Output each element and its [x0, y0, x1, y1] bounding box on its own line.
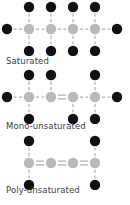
hydrogen-atom-node [2, 92, 12, 102]
molecule-mono-unsaturated [0, 68, 130, 124]
carbon-atom-node [24, 24, 34, 34]
carbon-atom-node [90, 92, 100, 102]
hydrogen-atom-node [112, 24, 122, 34]
label-saturated: Saturated [6, 56, 49, 66]
molecule-svg-saturated [0, 0, 130, 56]
carbon-atom-node [68, 158, 78, 168]
carbon-atom-node [46, 24, 56, 34]
carbon-atom-node [90, 24, 100, 34]
hydrogen-atom-node [112, 92, 122, 102]
carbon-atom-node [46, 92, 56, 102]
carbon-atom-node [68, 24, 78, 34]
hydrogen-atom-node [24, 2, 34, 12]
molecule-svg-mono-unsaturated [0, 68, 130, 124]
fatty-acid-diagram: Saturated Mono-unsaturated Poly-unsatura… [0, 0, 130, 205]
hydrogen-atom-node [46, 2, 56, 12]
carbon-atom-node [24, 158, 34, 168]
hydrogen-atom-node [90, 46, 100, 56]
hydrogen-atom-node [24, 46, 34, 56]
molecule-svg-poly-unsaturated [0, 134, 130, 190]
hydrogen-atom-node [46, 46, 56, 56]
label-mono-unsaturated: Mono-unsaturated [6, 121, 86, 131]
hydrogen-atom-node [90, 2, 100, 12]
hydrogen-atom-node [90, 180, 100, 190]
molecule-saturated [0, 0, 130, 56]
hydrogen-atom-node [2, 24, 12, 34]
hydrogen-atom-node [24, 136, 34, 146]
carbon-atom-node [46, 158, 56, 168]
molecule-poly-unsaturated [0, 134, 130, 190]
carbon-atom-node [90, 158, 100, 168]
hydrogen-atom-node [90, 70, 100, 80]
hydrogen-atom-node [90, 114, 100, 124]
carbon-atom-node [68, 92, 78, 102]
hydrogen-atom-node [68, 46, 78, 56]
hydrogen-atom-node [68, 2, 78, 12]
carbon-atom-node [24, 92, 34, 102]
hydrogen-atom-node [90, 136, 100, 146]
label-poly-unsaturated: Poly-unsaturated [6, 185, 80, 195]
hydrogen-atom-node [24, 70, 34, 80]
hydrogen-atom-node [46, 70, 56, 80]
